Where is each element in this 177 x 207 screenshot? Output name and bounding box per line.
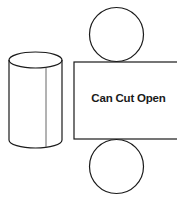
cylinder-top-ellipse (9, 52, 62, 68)
top-lid-circle (90, 8, 144, 62)
cylinder (9, 52, 62, 148)
diagram-label: Can Cut Open (74, 92, 177, 104)
bottom-lid-circle (90, 140, 144, 194)
cylinder-bottom-arc (9, 140, 62, 148)
